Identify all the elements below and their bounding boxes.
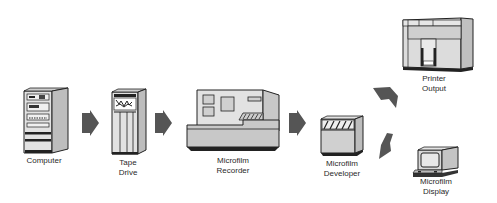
printer-output-label: Printer Output — [404, 74, 464, 94]
printer-output-icon — [401, 15, 475, 73]
arrow-right-icon — [155, 110, 172, 140]
tape-drive-icon — [110, 88, 148, 158]
arrow-right-icon — [82, 110, 99, 140]
microfilm-recorder-label: Microfilm Recorder — [203, 156, 263, 176]
arrow-right-icon — [289, 110, 306, 140]
microfilm-recorder-icon — [185, 87, 281, 155]
computer-label: Computer — [14, 156, 74, 166]
arrow-up-right-icon — [372, 86, 400, 114]
tape-drive-label: Tape Drive — [100, 158, 156, 178]
microfilm-developer-label: Microfilm Developer — [312, 159, 372, 179]
microfilm-display-icon — [412, 146, 462, 178]
computer-icon — [22, 87, 70, 157]
microfilm-display-label: Microfilm Display — [406, 177, 466, 197]
arrow-down-right-icon — [377, 133, 395, 165]
microfilm-developer-icon — [319, 115, 365, 157]
